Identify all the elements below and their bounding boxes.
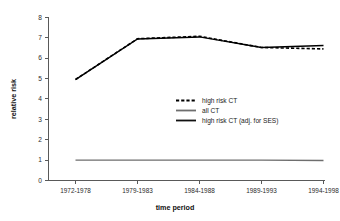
x-tick-label-1994-1998: 1994-1998: [308, 187, 339, 194]
legend-label-high-risk-ct-adj-ses: high risk CT (adj. for SES): [202, 117, 278, 125]
y-tick-label-6: 6: [38, 54, 42, 61]
legend-label-all-ct: all CT: [202, 107, 219, 114]
y-tick-label-3: 3: [38, 116, 42, 123]
y-tick-label-7: 7: [38, 34, 42, 41]
relative-risk-line-chart: 0 1 2 3 4 5 6 7 8 1972-1978 1979-1983 19…: [0, 0, 340, 221]
y-tick-label-4: 4: [38, 95, 42, 102]
y-tick-label-2: 2: [38, 136, 42, 143]
x-tick-label-1979-1983: 1979-1983: [122, 187, 153, 194]
chart-container: 0 1 2 3 4 5 6 7 8 1972-1978 1979-1983 19…: [0, 0, 340, 221]
y-tick-label-8: 8: [38, 14, 42, 21]
y-axis-tick-labels: 0 1 2 3 4 5 6 7 8: [38, 14, 42, 184]
x-tick-label-1972-1978: 1972-1978: [60, 187, 91, 194]
x-tick-label-1989-1993: 1989-1993: [246, 187, 277, 194]
y-tick-label-0: 0: [38, 177, 42, 184]
x-tick-label-1984-1988: 1984-1988: [184, 187, 215, 194]
y-tick-label-5: 5: [38, 75, 42, 82]
y-tick-label-1: 1: [38, 156, 42, 163]
x-axis-title: time period: [156, 203, 195, 212]
y-axis-title: relative risk: [9, 79, 18, 119]
chart-background: [0, 0, 340, 221]
legend-label-high-risk-ct: high risk CT: [202, 97, 237, 105]
